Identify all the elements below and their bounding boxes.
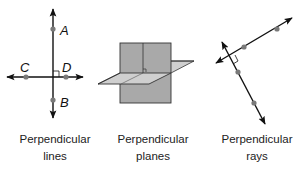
perpendicular-rays-figure <box>216 18 292 124</box>
label-c: C <box>20 60 30 75</box>
caption-line-1: Perpendicular <box>103 131 203 148</box>
caption-line-2: planes <box>103 148 203 165</box>
ray-lower-point-2 <box>251 100 256 105</box>
label-b: B <box>60 95 69 110</box>
caption-perpendicular-planes: Perpendicular planes <box>103 131 203 165</box>
caption-perpendicular-lines: Perpendicular lines <box>5 131 105 165</box>
caption-line-1: Perpendicular <box>207 131 300 148</box>
ray-upper-point-2 <box>274 26 279 31</box>
ray-upper <box>216 18 292 63</box>
caption-line-2: rays <box>207 148 300 165</box>
point-a <box>50 26 55 31</box>
label-a: A <box>59 23 69 38</box>
point-b <box>50 97 55 102</box>
point-c <box>23 74 28 79</box>
ray-lower-point-1 <box>235 69 240 74</box>
right-angle-mark <box>53 71 59 77</box>
ray-upper-point-1 <box>241 44 246 49</box>
caption-perpendicular-rays: Perpendicular rays <box>207 131 300 165</box>
point-d <box>63 74 68 79</box>
perpendicular-lines-figure: A B C D <box>7 9 83 118</box>
ray-lower <box>222 42 265 124</box>
label-d: D <box>62 60 71 75</box>
caption-line-1: Perpendicular <box>5 131 105 148</box>
right-angle-mark-rays <box>233 55 238 64</box>
caption-line-2: lines <box>5 148 105 165</box>
perpendicular-planes-figure <box>98 43 194 103</box>
